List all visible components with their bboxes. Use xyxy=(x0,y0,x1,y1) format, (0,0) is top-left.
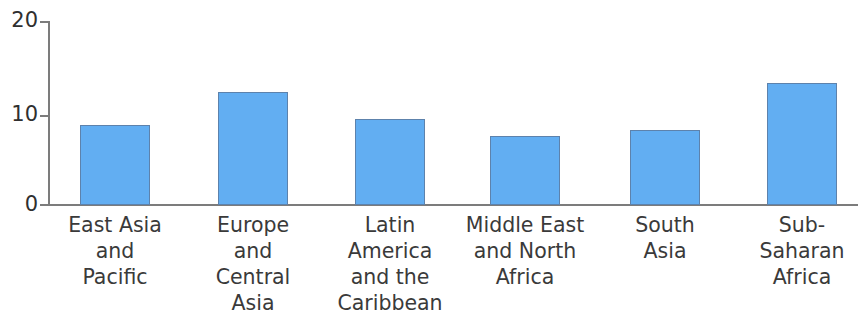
category-label-5: Sub- Saharan Africa xyxy=(725,212,858,290)
bar-5 xyxy=(767,83,837,205)
category-label-3: Middle East and North Africa xyxy=(448,212,602,290)
bar-2 xyxy=(355,119,425,205)
category-label-1: Europe and Central Asia xyxy=(176,212,330,316)
category-label-4: South Asia xyxy=(588,212,742,264)
bar-4 xyxy=(630,130,700,205)
bar-1 xyxy=(218,92,288,205)
plot-area xyxy=(0,0,858,205)
bar-chart: 20 10 0 East Asia and PacificEurope and … xyxy=(0,0,858,322)
bar-0 xyxy=(80,125,150,205)
category-labels: East Asia and PacificEurope and Central … xyxy=(0,212,858,322)
bar-3 xyxy=(490,136,560,205)
category-label-2: Latin America and the Caribbean xyxy=(313,212,467,316)
category-label-0: East Asia and Pacific xyxy=(38,212,192,290)
